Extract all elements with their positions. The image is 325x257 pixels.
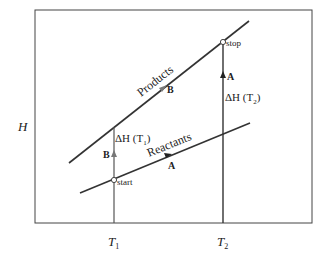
- x-tick-t1: T1: [108, 234, 119, 251]
- delta-h-t1-label: ΔH (T1): [115, 132, 151, 147]
- path-a-t2-marker: A: [227, 71, 235, 82]
- stop-point: [220, 39, 225, 44]
- y-axis-label: H: [17, 119, 28, 134]
- plot-frame: [35, 10, 312, 223]
- arrow-b-up-icon: [111, 150, 117, 157]
- path-b-products-marker: B: [167, 84, 174, 95]
- start-label: start: [117, 177, 133, 187]
- path-a-reactants-marker: A: [168, 160, 176, 171]
- x-tick-t2: T2: [217, 234, 228, 251]
- path-b-t1-marker: B: [103, 149, 110, 160]
- arrow-a-up-icon: [220, 71, 226, 78]
- delta-h-t2-label: ΔH (T2): [225, 91, 261, 106]
- enthalpy-path-diagram: H T1 T2 Products Reactants start stop B …: [0, 0, 325, 257]
- stop-label: stop: [226, 38, 242, 48]
- start-point: [111, 177, 116, 182]
